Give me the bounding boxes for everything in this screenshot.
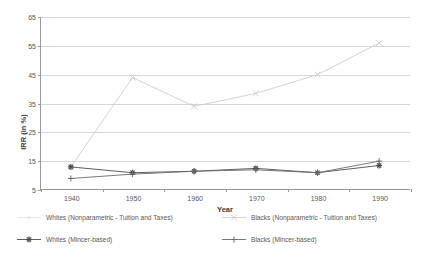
legend-label: Blacks (Mincer-based) (251, 236, 317, 244)
data-point-marker (68, 175, 74, 181)
data-point-marker (231, 237, 237, 243)
data-point-marker (68, 164, 74, 170)
series-2 (68, 40, 382, 170)
data-point-marker (28, 216, 31, 219)
legend-item-1[interactable]: Whites (Nonparametric - Tuition and Taxe… (16, 213, 173, 222)
legend-item-4[interactable]: Blacks (Mincer-based) (221, 235, 317, 244)
legend-label: Blacks (Nonparametric - Tuition and Taxe… (251, 214, 377, 222)
data-point-marker (130, 75, 136, 81)
legend-label: Whites (Mincer-based) (46, 236, 112, 244)
data-point-marker (376, 40, 382, 46)
series-line (71, 165, 379, 172)
chart-legend: Whites (Nonparametric - Tuition and Taxe… (16, 213, 416, 257)
legend-swatch-plus-icon (221, 235, 247, 244)
legend-swatch-asterisk-icon (16, 235, 42, 244)
legend-swatch-x-icon (221, 213, 247, 222)
legend-label: Whites (Nonparametric - Tuition and Taxe… (46, 214, 173, 222)
legend-item-3[interactable]: Whites (Mincer-based) (16, 235, 112, 244)
data-point-marker (130, 171, 136, 177)
legend-item-2[interactable]: Blacks (Nonparametric - Tuition and Taxe… (221, 213, 377, 222)
data-point-marker (26, 237, 32, 243)
chart-container: IRR (in %) 5152535455565 194019501960197… (0, 0, 429, 263)
series-line (71, 43, 379, 167)
data-point-marker (253, 167, 259, 173)
legend-swatch-dot-icon (16, 213, 42, 222)
data-point-marker (315, 72, 321, 78)
data-point-marker (376, 158, 382, 164)
